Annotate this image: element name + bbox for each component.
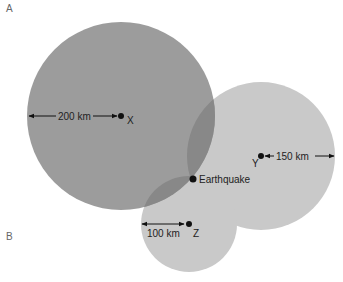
triangulation-diagram: A 200 km X 150 km Y Earthquake 100 km Z …: [0, 0, 343, 282]
epicenter-dot: [190, 176, 197, 183]
station-label-y: Y: [252, 158, 259, 169]
station-dot-y: [258, 153, 264, 159]
station-dot-z: [186, 221, 192, 227]
station-label-x: X: [127, 115, 134, 126]
station-label-z: Z: [193, 228, 199, 239]
station-dot-x: [118, 113, 124, 119]
epicenter-label: Earthquake: [199, 174, 251, 185]
distance-label-y: 150 km: [276, 151, 309, 162]
distance-label-z: 100 km: [147, 228, 180, 239]
distance-label-x: 200 km: [58, 111, 91, 122]
panel-label-b: B: [6, 231, 13, 242]
panel-label-a: A: [6, 3, 13, 14]
